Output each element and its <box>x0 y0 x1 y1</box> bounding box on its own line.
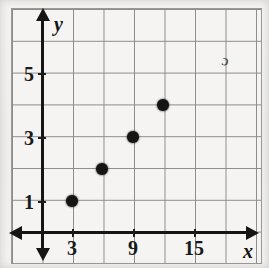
x-axis-label: x <box>243 241 253 261</box>
x-tick-label-9: 9 <box>128 238 138 258</box>
y-axis-arrow-down-icon <box>36 248 50 261</box>
y-tick-label-5: 5 <box>24 64 34 84</box>
x-tick-mark-3 <box>72 229 74 237</box>
y-tick-mark-1 <box>38 201 46 203</box>
x-tick-mark-15 <box>194 229 196 237</box>
data-point <box>96 163 108 175</box>
data-point <box>127 131 139 143</box>
y-axis-label: y <box>54 14 63 34</box>
x-axis-arrow-left-icon <box>9 226 22 240</box>
x-tick-mark-9 <box>133 229 135 237</box>
y-tick-mark-3 <box>38 137 46 139</box>
y-axis-arrow-up-icon <box>36 8 50 21</box>
y-axis-line <box>41 18 44 254</box>
data-point <box>66 195 78 207</box>
data-point <box>157 99 169 111</box>
x-tick-label-15: 15 <box>184 238 204 258</box>
coordinate-plane-figure: 3 9 15 1 3 5 y x ɔ <box>0 0 269 268</box>
y-tick-label-1: 1 <box>24 192 34 212</box>
y-tick-mark-5 <box>38 73 46 75</box>
x-axis-arrow-right-icon <box>246 226 259 240</box>
x-tick-label-3: 3 <box>67 238 77 258</box>
y-tick-label-3: 3 <box>24 128 34 148</box>
